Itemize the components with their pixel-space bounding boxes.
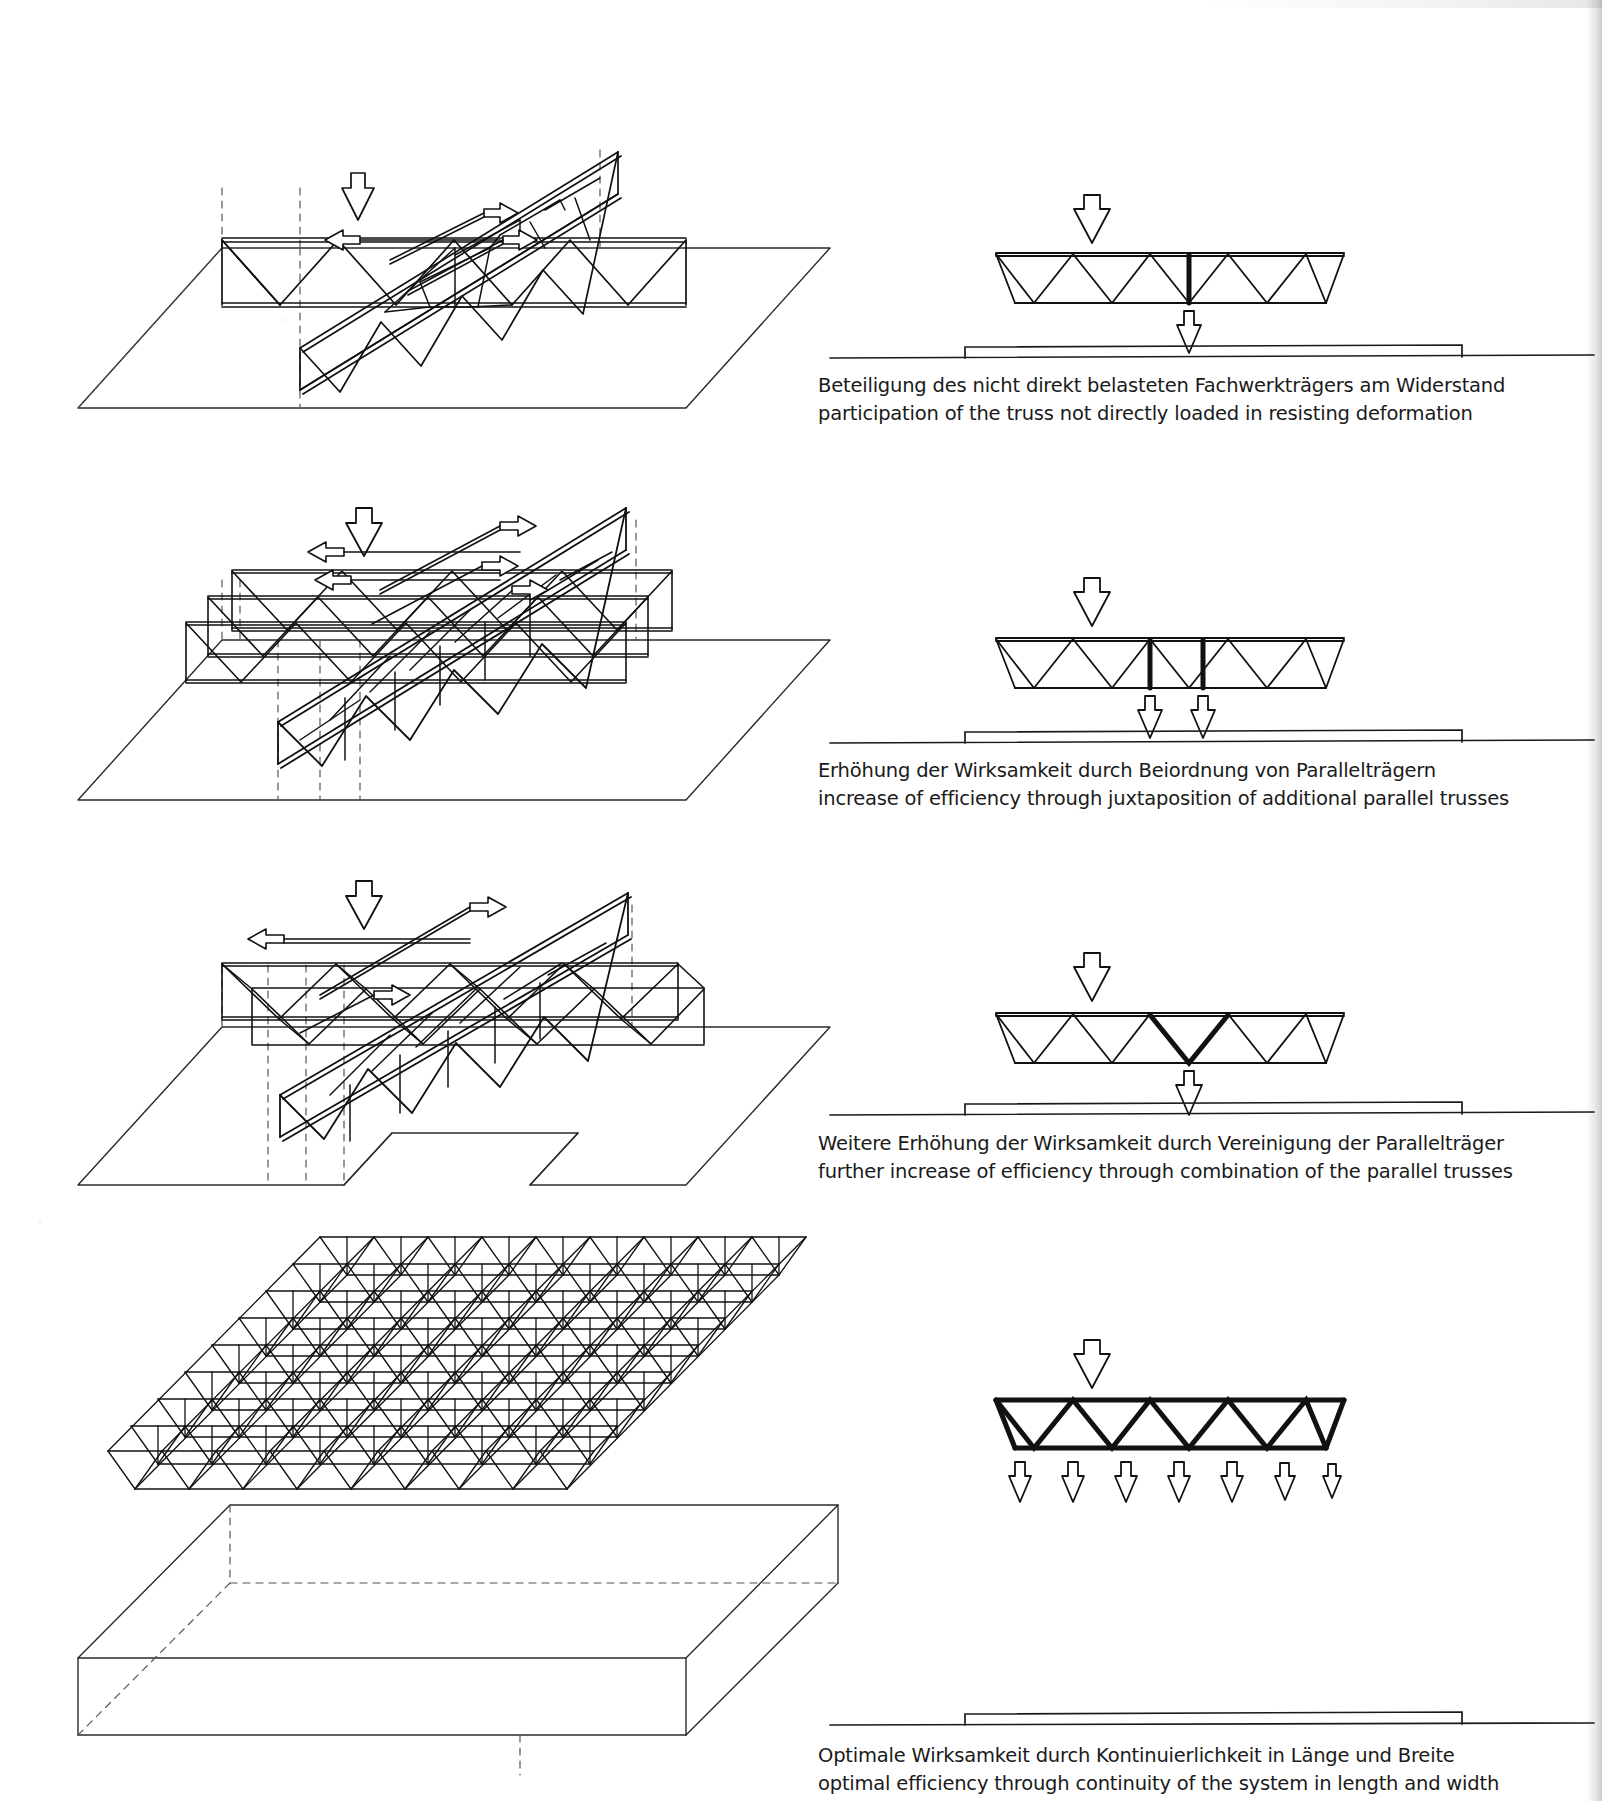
row-2-caption: Erhöhung der Wirksamkeit durch Beiordnun… xyxy=(818,757,1509,812)
load-arrow-down-icon xyxy=(342,173,374,220)
row-4-section-figure xyxy=(940,1330,1600,1530)
row-1-isometric-figure xyxy=(0,60,860,460)
background-truss-2 xyxy=(208,596,648,657)
row-4-caption: Optimale Wirksamkeit durch Kontinuierlic… xyxy=(818,1742,1499,1797)
row-3-caption: Weitere Erhöhung der Wirksamkeit durch V… xyxy=(818,1130,1513,1185)
load-arrow-down-icon xyxy=(1074,953,1110,1001)
caption-en: optimal efficiency through continuity of… xyxy=(818,1770,1499,1798)
space-frame-verticals xyxy=(158,1237,779,1464)
row-4-ground-line xyxy=(810,1705,1602,1735)
row-2-ground-line xyxy=(810,720,1602,750)
base-slab-notched xyxy=(78,1027,830,1185)
caption-de: Erhöhung der Wirksamkeit durch Beiordnun… xyxy=(818,757,1509,785)
reaction-arrow-up-icon-7 xyxy=(1323,1464,1341,1498)
caption-en: participation of the truss not directly … xyxy=(818,400,1505,428)
projection-lines xyxy=(78,150,600,408)
row-2-isometric-figure xyxy=(0,460,860,860)
reaction-arrow-up-icon-2 xyxy=(1062,1462,1084,1502)
space-frame-upper-layer xyxy=(108,1237,806,1451)
reaction-arrow-up-icon-5 xyxy=(1221,1462,1243,1502)
caption-de: Weitere Erhöhung der Wirksamkeit durch V… xyxy=(818,1130,1513,1158)
caption-de: Optimale Wirksamkeit durch Kontinuierlic… xyxy=(818,1742,1499,1770)
reaction-arrow-up-icon-3 xyxy=(1115,1462,1137,1502)
deformation-arrow-left-icon xyxy=(248,929,470,949)
truss-elevation-bold xyxy=(996,1400,1344,1448)
projection-lines xyxy=(222,520,636,800)
load-arrow-down-icon xyxy=(1074,578,1110,626)
base-slab xyxy=(78,640,830,800)
base-slab xyxy=(78,248,830,408)
load-arrow-down-icon xyxy=(1074,1340,1110,1388)
row-3-ground-line xyxy=(810,1092,1602,1122)
row-4-isometric-figure xyxy=(0,1215,880,1801)
load-arrow-down-icon xyxy=(1074,195,1110,243)
deformation-arrow-right-icon xyxy=(390,203,537,295)
row-3-isometric-figure xyxy=(0,855,860,1235)
reaction-arrow-up-icon-1 xyxy=(1009,1462,1031,1502)
reaction-arrow-up-icon-6 xyxy=(1275,1463,1295,1500)
bold-member-diagonal-v xyxy=(1150,1015,1228,1063)
caption-de: Beteiligung des nicht direkt belasteten … xyxy=(818,372,1505,400)
row-1-caption: Beteiligung des nicht direkt belasteten … xyxy=(818,372,1505,427)
page-edge-shadow-top xyxy=(1200,0,1602,8)
caption-en: further increase of efficiency through c… xyxy=(818,1158,1513,1186)
deformation-arrow-right-icon xyxy=(300,897,506,1033)
truss-elevation xyxy=(996,253,1344,303)
reaction-arrow-up-icon-4 xyxy=(1168,1462,1190,1502)
load-arrow-down-icon xyxy=(346,881,382,929)
base-slab-block xyxy=(78,1505,838,1735)
caption-en: increase of efficiency through juxtaposi… xyxy=(818,785,1509,813)
row-1-ground-line xyxy=(810,335,1602,365)
load-arrow-down-icon xyxy=(346,508,382,556)
truss-elevation xyxy=(996,638,1344,688)
